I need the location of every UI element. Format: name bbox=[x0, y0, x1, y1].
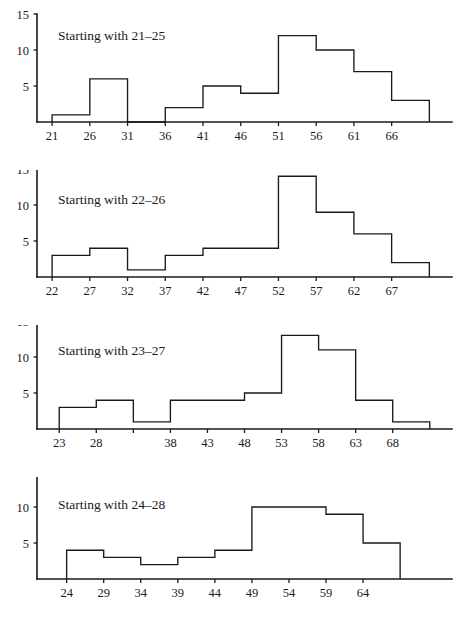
x-axis-tick-label: 28 bbox=[90, 436, 103, 450]
x-axis-tick-label: 56 bbox=[310, 129, 323, 143]
histogram-panel: 5101522273237424752576267Starting with 2… bbox=[0, 170, 465, 325]
x-axis-tick-label: 52 bbox=[272, 284, 285, 298]
y-axis-tick-label: 15 bbox=[17, 170, 30, 177]
y-axis-tick-label: 10 bbox=[17, 501, 30, 515]
y-axis-tick-label: 5 bbox=[23, 537, 29, 551]
x-axis-tick-label: 66 bbox=[385, 129, 398, 143]
x-axis-tick-label: 37 bbox=[159, 284, 172, 298]
x-axis-tick-label: 29 bbox=[97, 586, 110, 600]
x-axis-tick-label: 46 bbox=[234, 129, 247, 143]
y-axis-tick-label: 15 bbox=[17, 325, 30, 329]
x-axis-tick-label: 62 bbox=[348, 284, 361, 298]
x-axis-tick-label: 39 bbox=[172, 586, 185, 600]
y-axis-tick-label: 15 bbox=[17, 477, 30, 479]
x-axis-tick-label: 38 bbox=[164, 436, 177, 450]
panel-title: Starting with 21–25 bbox=[58, 28, 165, 43]
x-axis-tick-label: 48 bbox=[238, 436, 251, 450]
histogram-panel: 51015242934394449545964Starting with 24–… bbox=[0, 477, 465, 627]
x-axis-tick-label: 21 bbox=[46, 129, 59, 143]
x-axis-tick-label: 58 bbox=[312, 436, 325, 450]
y-axis-tick-label: 10 bbox=[17, 199, 30, 213]
x-axis-tick-label: 68 bbox=[386, 436, 399, 450]
x-axis-tick-label: 22 bbox=[46, 284, 59, 298]
x-axis-tick-label: 63 bbox=[349, 436, 362, 450]
y-axis-tick-label: 15 bbox=[17, 8, 30, 22]
x-axis-tick-label: 32 bbox=[121, 284, 134, 298]
x-axis-tick-label: 26 bbox=[84, 129, 97, 143]
x-axis-tick-label: 44 bbox=[209, 586, 222, 600]
y-axis-tick-label: 5 bbox=[23, 235, 29, 249]
panel-title: Starting with 23–27 bbox=[58, 343, 165, 358]
histogram-bars bbox=[67, 507, 400, 579]
x-axis-tick-label: 47 bbox=[234, 284, 247, 298]
panel-title: Starting with 22–26 bbox=[58, 192, 165, 207]
y-axis-tick-label: 10 bbox=[17, 351, 30, 365]
histogram-panel: 5101521263136414651566166Starting with 2… bbox=[0, 0, 465, 170]
x-axis-tick-label: 54 bbox=[283, 586, 296, 600]
x-axis-tick-label: 53 bbox=[275, 436, 288, 450]
x-axis-tick-label: 34 bbox=[135, 586, 148, 600]
x-axis-tick-label: 36 bbox=[159, 129, 172, 143]
panel-title: Starting with 24–28 bbox=[58, 497, 165, 512]
x-axis-tick-label: 67 bbox=[385, 284, 398, 298]
y-axis-tick-label: 5 bbox=[23, 80, 29, 94]
x-axis-tick-label: 23 bbox=[53, 436, 66, 450]
x-axis-tick-label: 43 bbox=[201, 436, 214, 450]
x-axis-tick-label: 64 bbox=[357, 586, 370, 600]
histogram-bars bbox=[52, 36, 429, 122]
x-axis-tick-label: 51 bbox=[272, 129, 285, 143]
x-axis-tick-label: 49 bbox=[246, 586, 259, 600]
x-axis-tick-label: 59 bbox=[320, 586, 333, 600]
x-axis-tick-label: 24 bbox=[60, 586, 73, 600]
x-axis-tick-label: 31 bbox=[121, 129, 134, 143]
x-axis-tick-label: 42 bbox=[197, 284, 210, 298]
x-axis-tick-label: 27 bbox=[84, 284, 97, 298]
x-axis-tick-label: 61 bbox=[348, 129, 361, 143]
x-axis-tick-label: 41 bbox=[197, 129, 210, 143]
histogram-panel: 51015232838434853586368Starting with 23–… bbox=[0, 325, 465, 477]
y-axis-tick-label: 5 bbox=[23, 387, 29, 401]
y-axis-tick-label: 10 bbox=[17, 44, 30, 58]
x-axis-tick-label: 57 bbox=[310, 284, 323, 298]
histogram-figure: 5101521263136414651566166Starting with 2… bbox=[0, 0, 465, 627]
